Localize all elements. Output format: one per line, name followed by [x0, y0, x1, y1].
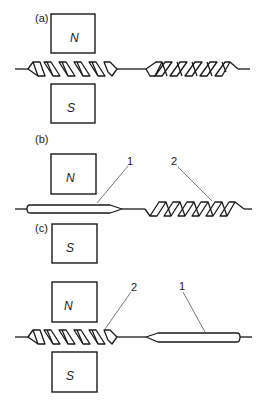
- panel-label-c: (c): [35, 222, 48, 234]
- callout-label-1: 1: [179, 280, 185, 292]
- magnet-north-c: N: [52, 282, 97, 322]
- callout-leader-1: [183, 292, 205, 332]
- pole-label-s: S: [67, 101, 75, 115]
- callout-label-2: 2: [131, 281, 137, 293]
- pole-label-n: N: [70, 31, 79, 45]
- panel-c: (c) N 2 1 S: [15, 222, 252, 392]
- magnet-north-a: N: [51, 14, 95, 53]
- coil-right-a: [146, 62, 238, 76]
- magnet-south-a: S: [51, 84, 95, 123]
- pole-label-s: S: [66, 369, 74, 383]
- coil-right-b: [145, 202, 244, 216]
- magnet-south-b: S: [52, 224, 97, 263]
- panel-label-a: (a): [35, 12, 48, 24]
- coil-left-a: [28, 62, 117, 76]
- bar-element-b: [27, 205, 122, 213]
- callout-leader-2: [178, 167, 212, 201]
- coil-left-c: [28, 330, 117, 344]
- pole-label-n: N: [66, 171, 75, 185]
- panel-a: (a) N: [15, 12, 250, 123]
- bar-element-c: [146, 333, 240, 342]
- panel-b: (b) N 1 2 S: [15, 133, 252, 263]
- callout-label-2: 2: [171, 155, 177, 167]
- diagram-canvas: (a) N: [0, 0, 267, 408]
- callout-label-1: 1: [127, 155, 133, 167]
- panel-label-b: (b): [35, 133, 48, 145]
- magnet-north-b: N: [51, 154, 96, 194]
- pole-label-s: S: [66, 241, 74, 255]
- callout-leader-1: [97, 166, 128, 203]
- callout-leader-2: [105, 292, 131, 329]
- pole-label-n: N: [64, 299, 73, 313]
- magnet-south-c: S: [52, 352, 97, 392]
